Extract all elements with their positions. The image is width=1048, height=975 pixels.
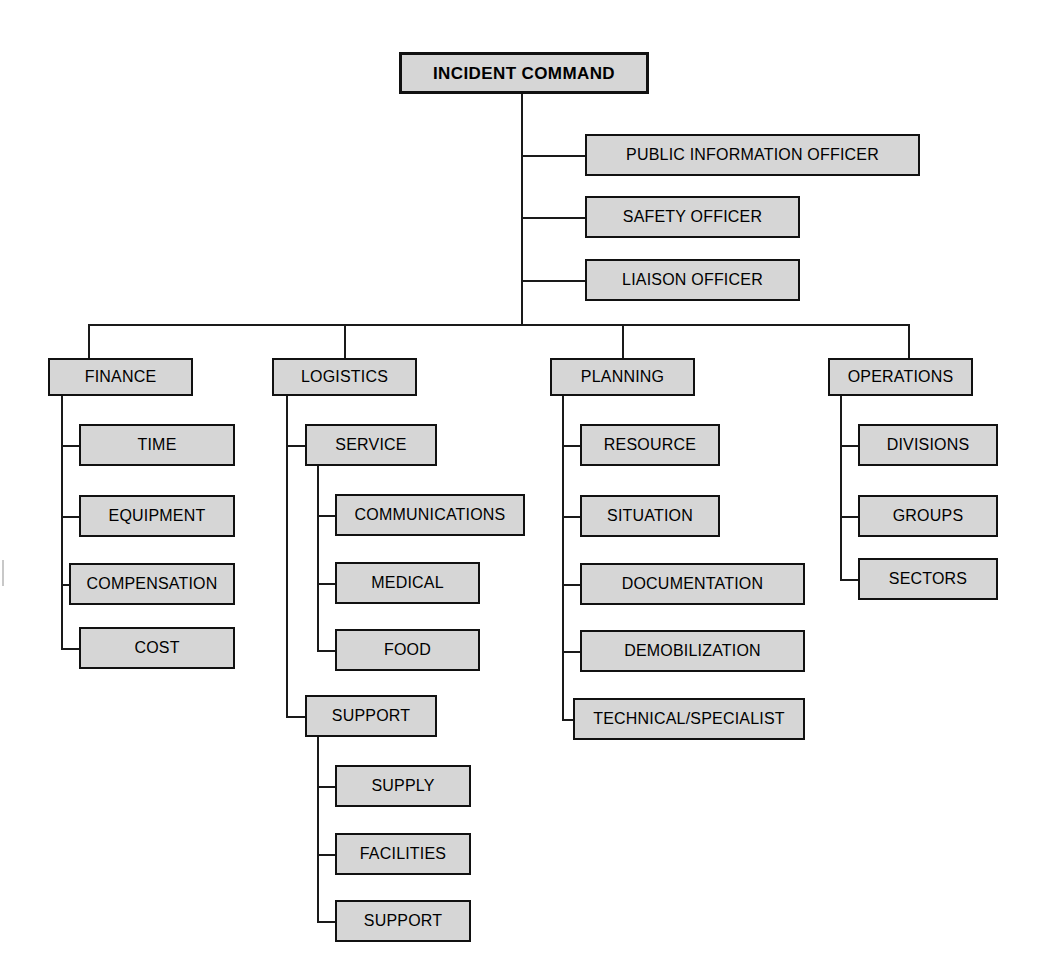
connector-support-support-unit <box>317 921 335 923</box>
node-planning[interactable]: PLANNING <box>550 358 695 396</box>
connector-staff-safety <box>521 217 585 219</box>
node-cost[interactable]: COST <box>79 627 235 669</box>
node-communications[interactable]: COMMUNICATIONS <box>335 494 525 536</box>
node-technical-specialist[interactable]: TECHNICAL/SPECIALIST <box>573 698 805 740</box>
connector-staff-pio <box>521 155 585 157</box>
connector-operations-sectors <box>840 579 858 581</box>
scan-artifact <box>2 560 4 586</box>
connector-finance-time <box>61 445 79 447</box>
node-resource[interactable]: RESOURCE <box>580 424 720 466</box>
node-sectors[interactable]: SECTORS <box>858 558 998 600</box>
node-liaison-officer[interactable]: LIAISON OFFICER <box>585 259 800 301</box>
node-support[interactable]: SUPPORT <box>305 695 437 737</box>
connector-finance-equipment <box>61 516 79 518</box>
node-logistics[interactable]: LOGISTICS <box>272 358 417 396</box>
node-operations[interactable]: OPERATIONS <box>828 358 973 396</box>
node-time[interactable]: TIME <box>79 424 235 466</box>
node-facilities[interactable]: FACILITIES <box>335 833 471 875</box>
connector-staff-liaison <box>521 280 585 282</box>
node-medical[interactable]: MEDICAL <box>335 562 480 604</box>
node-situation[interactable]: SITUATION <box>580 495 720 537</box>
node-finance[interactable]: FINANCE <box>48 358 193 396</box>
node-compensation[interactable]: COMPENSATION <box>69 563 235 605</box>
org-chart-diagram: INCIDENT COMMAND PUBLIC INFORMATION OFFI… <box>0 0 1048 975</box>
connector-service-spine <box>317 466 319 650</box>
connector-drop-logistics <box>344 324 346 358</box>
connector-support-spine <box>317 737 319 921</box>
connector-drop-operations <box>908 324 910 358</box>
node-service[interactable]: SERVICE <box>305 424 437 466</box>
connector-drop-finance <box>88 324 90 358</box>
node-support-unit[interactable]: SUPPORT <box>335 900 471 942</box>
connector-operations-spine <box>840 396 842 580</box>
connector-logistics-support <box>286 716 305 718</box>
node-supply[interactable]: SUPPLY <box>335 765 471 807</box>
connector-planning-documentation <box>562 584 580 586</box>
node-incident-command[interactable]: INCIDENT COMMAND <box>399 52 649 94</box>
connector-root-spine <box>521 94 523 326</box>
connector-logistics-service <box>286 445 305 447</box>
connector-service-communications <box>317 515 335 517</box>
node-public-information-officer[interactable]: PUBLIC INFORMATION OFFICER <box>585 134 920 176</box>
connector-planning-demobilization <box>562 651 580 653</box>
connector-operations-divisions <box>840 445 858 447</box>
connector-drop-planning <box>622 324 624 358</box>
node-groups[interactable]: GROUPS <box>858 495 998 537</box>
connector-section-bus <box>88 324 910 326</box>
connector-support-supply <box>317 786 335 788</box>
node-food[interactable]: FOOD <box>335 629 480 671</box>
connector-planning-resource <box>562 445 580 447</box>
connector-operations-groups <box>840 516 858 518</box>
connector-planning-situation <box>562 516 580 518</box>
connector-support-facilities <box>317 854 335 856</box>
connector-service-food <box>317 650 335 652</box>
node-divisions[interactable]: DIVISIONS <box>858 424 998 466</box>
node-equipment[interactable]: EQUIPMENT <box>79 495 235 537</box>
connector-finance-spine <box>61 396 63 648</box>
node-safety-officer[interactable]: SAFETY OFFICER <box>585 196 800 238</box>
node-documentation[interactable]: DOCUMENTATION <box>580 563 805 605</box>
node-demobilization[interactable]: DEMOBILIZATION <box>580 630 805 672</box>
connector-finance-cost <box>61 648 79 650</box>
connector-service-medical <box>317 583 335 585</box>
